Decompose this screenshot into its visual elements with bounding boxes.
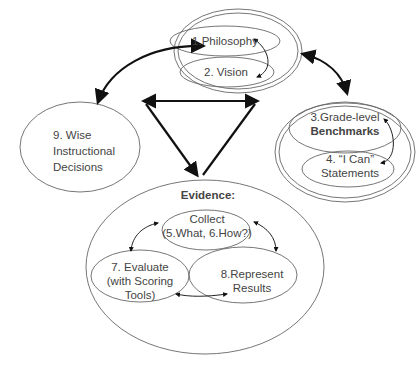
- evidence-label: Evidence:: [170, 188, 246, 202]
- wise-label-line2: Instructional: [53, 144, 115, 158]
- collect-represent-arrow: [254, 222, 276, 251]
- collect-label-line2: (5.What, 6.How?): [158, 226, 256, 240]
- triangle-arrows: [144, 101, 257, 175]
- wise-label-line1: 9. Wise: [53, 128, 91, 142]
- ican-label-line2: Statements: [310, 166, 390, 180]
- benchmarks-label-line1: 3.Grade-level: [300, 110, 390, 124]
- diagram-shapes: [0, 0, 419, 367]
- diagram-canvas: 1.Philosophy 2. Vision 3.Grade-level Ben…: [0, 0, 419, 367]
- philosophy-wise-arrow: [98, 46, 203, 102]
- vision-label: 2. Vision: [196, 65, 256, 79]
- collect-label-line1: Collect: [160, 212, 254, 226]
- evaluate-label-line3: Tools): [100, 288, 180, 302]
- evaluate-label-line2: (with Scoring: [100, 274, 180, 288]
- represent-label-line1: 8.Represent: [212, 267, 292, 281]
- represent-label-line2: Results: [212, 281, 292, 295]
- evaluate-label-line1: 7. Evaluate: [100, 260, 180, 274]
- wise-label-line3: Decisions: [53, 160, 103, 174]
- ican-label-line1: 4. “I Can”: [310, 152, 390, 166]
- collect-evaluate-arrow: [131, 223, 158, 251]
- philosophy-benchmarks-arrow: [303, 54, 347, 93]
- philosophy-vision-group: [170, 9, 302, 93]
- benchmarks-label-line2: Benchmarks: [300, 124, 390, 138]
- philosophy-label: 1.Philosophy: [190, 34, 260, 48]
